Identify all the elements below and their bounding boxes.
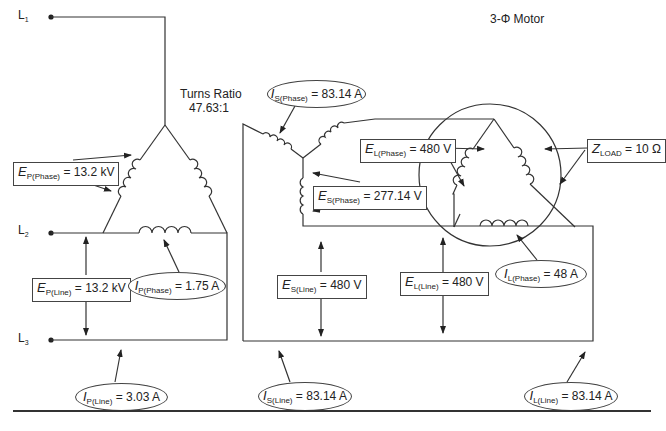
line-label-l1: L1 (18, 8, 29, 23)
symbol: E (37, 280, 46, 295)
subscript: L(Phase) (508, 274, 540, 283)
symbol: E (318, 188, 327, 203)
line-sub: 3 (25, 339, 29, 346)
value: = 480 V (409, 142, 451, 156)
value: = 13.2 kV (75, 281, 126, 295)
line-sub: 2 (25, 231, 29, 238)
subscript: LOAD (600, 149, 622, 158)
is-phase-ellipse: IS(Phase) = 83.14 A (267, 80, 366, 108)
es-phase-box: ES(Phase) = 277.14 V (313, 186, 427, 210)
value: = 83.14 A (311, 87, 362, 101)
value: = 1.75 A (175, 279, 219, 293)
value: = 83.14 A (296, 389, 347, 403)
subscript: P(Line) (87, 397, 113, 406)
primary-wiring (48, 14, 227, 382)
subscript: L(Line) (533, 396, 558, 405)
z-load-box: ZLOAD = 10 Ω (587, 139, 666, 163)
turns-ratio-title: Turns Ratio (180, 87, 242, 101)
subscript: L(Phase) (374, 149, 406, 158)
subscript: S(Phase) (274, 94, 307, 103)
es-line-box: ES(Line) = 480 V (277, 275, 367, 299)
el-phase-box: EL(Phase) = 480 V (360, 139, 456, 163)
line-symbol: L (18, 223, 25, 237)
motor-title: 3-Φ Motor (490, 12, 544, 26)
motor (419, 104, 588, 260)
value: = 3.03 A (116, 390, 160, 404)
value: = 13.2 kV (63, 165, 114, 179)
subscript: P(Phase) (138, 286, 171, 295)
value: = 48 A (544, 267, 578, 281)
subscript: L(Line) (414, 282, 439, 291)
symbol: E (282, 277, 291, 292)
subscript: S(Line) (291, 285, 317, 294)
value: = 480 V (320, 278, 362, 292)
symbol: E (18, 164, 27, 179)
line-symbol: L (18, 8, 25, 22)
value: = 480 V (442, 275, 484, 289)
symbol: E (405, 274, 414, 289)
ep-phase-box: EP(Phase) = 13.2 kV (13, 162, 119, 186)
symbol: Z (592, 141, 600, 156)
symbol: E (365, 141, 374, 156)
ep-line-box: EP(Line) = 13.2 kV (32, 278, 131, 302)
il-phase-ellipse: IL(Phase) = 48 A (495, 260, 587, 288)
line-label-l3: L3 (18, 331, 29, 346)
subscript: S(Phase) (327, 196, 360, 205)
subscript: P(Line) (46, 288, 72, 297)
ip-line-ellipse: IP(Line) = 3.03 A (75, 383, 168, 411)
turns-ratio-value: 47.63:1 (189, 101, 229, 115)
subscript: S(Line) (267, 396, 293, 405)
el-line-box: EL(Line) = 480 V (400, 272, 489, 296)
is-line-ellipse: IS(Line) = 83.14 A (258, 382, 352, 411)
line-sub: 1 (25, 16, 29, 23)
bottom-rule (13, 410, 651, 412)
subscript: P(Phase) (27, 172, 60, 181)
value: = 10 Ω (625, 142, 661, 156)
il-line-ellipse: IL(Line) = 83.14 A (524, 382, 618, 411)
value: = 277.14 V (363, 189, 421, 203)
value: = 83.14 A (561, 389, 612, 403)
line-symbol: L (18, 331, 25, 345)
ip-phase-ellipse: IP(Phase) = 1.75 A (128, 272, 226, 300)
line-label-l2: L2 (18, 223, 29, 238)
